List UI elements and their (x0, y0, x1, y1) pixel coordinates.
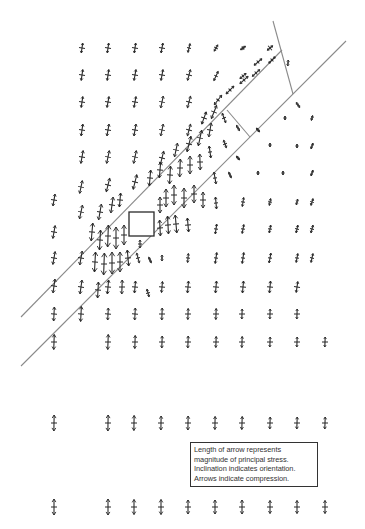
stress-arrow-icon (131, 124, 139, 137)
stress-arrow-icon (96, 230, 103, 250)
stress-arrow-icon (185, 308, 191, 319)
stress-arrow-icon (240, 197, 245, 206)
stress-arrow-icon (266, 281, 273, 293)
stress-arrow-icon (159, 336, 165, 348)
stress-arrow-icon (158, 416, 164, 430)
stress-arrow-icon (131, 69, 139, 81)
top-end-line (273, 21, 293, 94)
stress-arrow-icon (267, 417, 273, 429)
stress-arrow-icon (213, 224, 218, 234)
stress-arrow-icon (265, 43, 274, 52)
stress-arrow-icon (213, 336, 219, 347)
stress-arrow-icon (78, 150, 86, 164)
stress-arrow-icon (132, 308, 139, 320)
legend-box: Length of arrow represents magnitude of … (190, 442, 318, 487)
stress-arrow-icon (322, 501, 328, 514)
stress-arrow-icon (104, 69, 111, 81)
stress-arrow-icon (206, 123, 214, 138)
stress-arrow-icon (158, 96, 166, 109)
stress-arrow-icon (185, 416, 191, 430)
stress-arrow-icon (159, 281, 166, 292)
stress-arrow-icon (228, 172, 233, 178)
stress-arrow-icon (156, 162, 163, 178)
stress-arrow-icon (158, 43, 166, 54)
stress-arrow-icon (158, 500, 164, 515)
stress-arrow-icon (119, 280, 125, 294)
stress-arrow-icon (294, 225, 300, 234)
legend-line-inclination: Inclination indicates orientation. (194, 464, 314, 474)
stress-arrow-icon (212, 281, 219, 293)
stress-arrow-icon (177, 159, 184, 177)
stress-arrow-icon (213, 94, 224, 106)
stress-arrow-icon (296, 144, 298, 148)
stress-arrow-icon (310, 170, 314, 176)
stress-arrow-icon (310, 143, 314, 149)
stress-arrow-icon (322, 337, 328, 347)
stress-arrow-icon (197, 154, 204, 170)
stress-arrow-icon (158, 69, 166, 81)
stress-arrow-icon (195, 130, 204, 147)
stress-arrow-icon (181, 188, 187, 208)
stress-arrow-icon (77, 280, 85, 295)
stress-arrow-icon (161, 255, 163, 261)
stress-arrow-icon (191, 185, 197, 203)
stress-arrow-icon (172, 215, 180, 233)
stress-arrow-icon (213, 308, 219, 319)
stress-arrow-icon (239, 336, 245, 347)
stress-arrow-icon (148, 257, 153, 263)
stress-arrow-icon (187, 156, 193, 174)
stress-arrow-icon (185, 123, 194, 136)
stress-arrow-icon (222, 140, 228, 149)
stress-arrow-icon (116, 193, 123, 207)
stress-arrow-icon (105, 308, 112, 320)
stress-arrow-icon (171, 185, 177, 205)
stress-arrow-icon (240, 252, 245, 263)
stress-arrow-icon (101, 253, 108, 275)
stress-arrow-icon (184, 218, 191, 232)
stress-arrow-icon (50, 194, 58, 207)
stress-arrow-icon (51, 415, 57, 431)
stress-arrow-icon (167, 166, 174, 184)
stress-arrow-icon (284, 116, 286, 120)
stress-arrow-icon (200, 192, 206, 208)
stress-arrow-icon (51, 307, 58, 321)
stress-arrow-icon (253, 57, 263, 66)
inner-end-line (227, 110, 250, 137)
stress-arrow-icon (185, 69, 194, 81)
stress-arrow-icon (132, 335, 138, 348)
stress-arrow-icon (131, 43, 138, 54)
legend-line-compression: Arrows indicate compression. (194, 474, 314, 484)
stress-arrow-icon (96, 204, 105, 221)
stress-arrow-icon (220, 113, 227, 124)
stress-arrow-icon (293, 281, 300, 293)
stress-arrow-icon (239, 45, 246, 52)
stress-arrow-icon (199, 111, 209, 125)
stress-arrow-icon (105, 225, 112, 247)
stress-arrow-icon (309, 198, 315, 206)
stress-arrow-icon (267, 253, 273, 264)
stress-arrow-icon (50, 225, 58, 239)
stress-arrow-icon (212, 416, 218, 429)
stress-arrow-icon (239, 416, 245, 429)
stress-arrow-icon (130, 174, 139, 190)
stress-arrow-icon (267, 501, 273, 514)
stress-arrow-icon (138, 240, 142, 248)
stress-arrow-icon (88, 223, 96, 241)
stress-arrow-icon (51, 334, 58, 349)
stress-arrow-icon (282, 171, 284, 175)
stress-arrow-icon (157, 150, 166, 165)
stress-arrow-icon (209, 104, 220, 119)
stress-arrow-icon (159, 308, 165, 320)
stress-arrow-icon (109, 252, 115, 274)
stress-arrow-icon (255, 127, 260, 132)
stress-arrow-icon (103, 177, 112, 192)
stress-arrow-icon (131, 281, 138, 293)
stress-arrow-icon (50, 251, 58, 265)
stress-arrow-icon (235, 155, 240, 160)
stress-arrow-icon (157, 197, 163, 213)
stress-arrow-icon (113, 227, 119, 249)
stress-arrow-icon (77, 205, 86, 220)
stress-arrow-icon (294, 417, 300, 429)
stress-arrow-icon (158, 124, 166, 137)
stress-arrow-icon (135, 253, 141, 264)
